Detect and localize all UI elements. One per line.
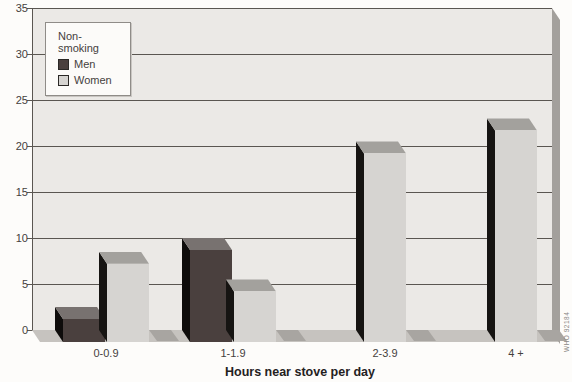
x-tick-label-1-1.9: 1-1.9 [198, 347, 268, 359]
y-tick-15 [27, 192, 35, 193]
y-tick-5 [27, 284, 35, 285]
bar-top-face-women-1-1.9 [226, 279, 276, 291]
bar-front-face-women-0-0.9 [107, 264, 149, 342]
bar-top-face-women-2-3.9 [356, 141, 406, 153]
gridline-10 [32, 238, 552, 239]
y-tick-label-10: 10 [0, 232, 28, 244]
y-tick-35 [27, 8, 35, 9]
gridline-20 [32, 146, 552, 147]
y-tick-label-15: 15 [0, 186, 28, 198]
bar-top-face-men-0-0.9 [55, 307, 105, 319]
bar-top-face-women-4+ [487, 118, 537, 130]
bar-top-face-women-0-0.9 [99, 252, 149, 264]
bar-side-face-women-0-0.9 [99, 252, 107, 342]
bar-front-face-men-0-0.9 [63, 319, 105, 342]
legend-item-women: Women [58, 74, 122, 86]
bar-front-face-women-4+ [495, 130, 537, 342]
bar-front-face-men-1-1.9 [190, 250, 232, 342]
y-tick-label-25: 25 [0, 94, 28, 106]
y-axis-line [32, 8, 33, 331]
plot-right-wall [552, 8, 560, 344]
men-color-swatch [58, 59, 69, 70]
bar-top-face-men-1-1.9 [182, 238, 232, 250]
legend-label-women: Women [74, 74, 112, 86]
y-tick-25 [27, 100, 35, 101]
x-axis-title: Hours near stove per day [140, 365, 460, 379]
bar-side-face-women-4+ [487, 118, 495, 342]
x-tick-label-4+: 4 + [481, 347, 551, 359]
bar-front-face-women-2-3.9 [364, 153, 406, 342]
y-tick-label-0: 0 [0, 324, 28, 336]
women-color-swatch [58, 75, 69, 86]
y-tick-20 [27, 146, 35, 147]
y-tick-label-35: 35 [0, 2, 28, 14]
x-tick-label-2-3.9: 2-3.9 [350, 347, 420, 359]
chart-figure: 051015202530350-0.91-1.92-3.94 + Non-smo… [0, 0, 572, 382]
bar-side-face-women-2-3.9 [356, 141, 364, 342]
x-tick-label-0-0.9: 0-0.9 [71, 347, 141, 359]
legend-title: Non-smoking [58, 30, 122, 54]
gridline-35 [32, 8, 552, 9]
legend-label-men: Men [74, 58, 95, 70]
y-tick-label-20: 20 [0, 140, 28, 152]
figure-credit: WHO 92184 [563, 292, 570, 352]
legend-item-men: Men [58, 58, 122, 70]
bar-front-face-women-1-1.9 [234, 291, 276, 342]
gridline-15 [32, 192, 552, 193]
bar-side-face-men-1-1.9 [182, 238, 190, 342]
y-tick-30 [27, 54, 35, 55]
gridline-25 [32, 100, 552, 101]
legend: Non-smoking Men Women [45, 22, 131, 96]
y-tick-10 [27, 238, 35, 239]
y-tick-label-5: 5 [0, 278, 28, 290]
y-tick-label-30: 30 [0, 48, 28, 60]
